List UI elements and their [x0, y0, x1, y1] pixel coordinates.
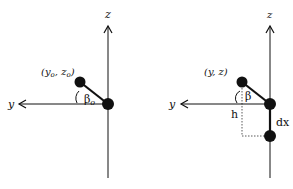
point-label: (yo, zo) [41, 66, 75, 79]
mass-dot [75, 77, 86, 88]
z-axis-label: z [104, 8, 111, 21]
displacement-label: dx [276, 116, 290, 129]
diagram-displaced: z y (y, z) β h dx [168, 9, 290, 178]
pendulum-diagrams: z y (yo, zo) βo z y (y, z) β h dx [0, 0, 293, 189]
z-axis-label: z [266, 9, 273, 20]
angle-label: β [245, 90, 251, 103]
y-axis-label: y [7, 98, 15, 111]
pivot-dot [264, 98, 276, 110]
mass-dot [237, 77, 248, 88]
lower-dot [264, 130, 276, 142]
angle-arc [76, 91, 79, 103]
angle-label: βo [84, 93, 95, 107]
pivot-dot [102, 98, 114, 110]
y-axis-label: y [168, 98, 176, 111]
height-label: h [231, 108, 238, 121]
point-label: (y, z) [204, 66, 228, 77]
angle-arc [235, 91, 240, 103]
diagram-initial: z y (yo, zo) βo [7, 8, 114, 178]
